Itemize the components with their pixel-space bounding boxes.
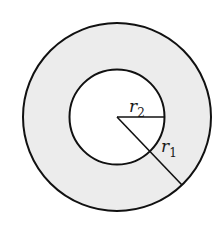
annulus-diagram: r2 r1	[0, 0, 219, 229]
